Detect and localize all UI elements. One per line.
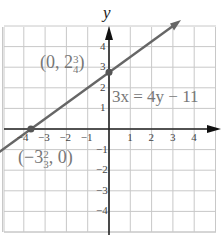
x-tick-label: −2: [59, 132, 71, 143]
x-tick-label: 2: [149, 132, 155, 143]
coordinate-plane: [0, 0, 223, 242]
y-tick-label: −3: [96, 185, 108, 196]
x-intercept-close: , 0): [49, 147, 73, 167]
y-tick-label: −2: [96, 164, 108, 175]
y-tick-label: −1: [96, 144, 108, 155]
x-tick-label: −3: [38, 132, 50, 143]
y-tick-label: 2: [100, 82, 106, 93]
y-tick-label: −4: [96, 205, 108, 216]
y-intercept-close: ): [79, 52, 85, 72]
y-axis-label: y: [103, 4, 111, 21]
x-tick-label: −4: [17, 132, 29, 143]
axes: [4, 26, 221, 235]
equation-label: 3x = 4y − 11: [112, 88, 199, 105]
y-intercept-label: (0, 234): [40, 53, 85, 74]
x-tick-label: 1: [127, 132, 133, 143]
x-intercept-text: (−3: [18, 147, 43, 167]
y-tick-label: 4: [100, 41, 106, 52]
x-tick-label: 3: [170, 132, 176, 143]
y-tick-label: 1: [100, 102, 106, 113]
x-tick-label: −1: [81, 132, 93, 143]
x-tick-label: 4: [191, 132, 197, 143]
y-tick-label: 3: [100, 61, 106, 72]
x-intercept-label: (−323, 0): [18, 148, 73, 169]
y-intercept-text: (0, 2: [40, 52, 73, 72]
